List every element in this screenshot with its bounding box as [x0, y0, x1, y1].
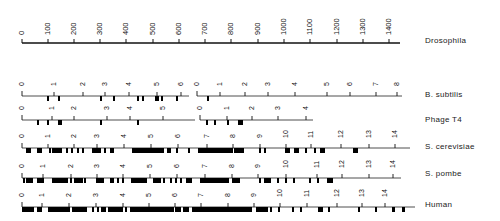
- conserved-block: [122, 178, 124, 183]
- track-tick-label: 7: [197, 193, 204, 197]
- conserved-block: [314, 148, 316, 153]
- scale-tick-label: 600: [174, 22, 183, 35]
- track-tick-label: 5: [147, 134, 154, 138]
- conserved-block: [97, 207, 99, 212]
- track-tick-label: 0: [18, 164, 25, 168]
- scale-tick-label: 1000: [279, 18, 288, 35]
- conserved-block: [285, 148, 290, 153]
- conserved-block: [70, 178, 72, 183]
- conserved-block: [71, 148, 73, 153]
- conserved-block: [137, 96, 139, 101]
- conserved-block: [238, 207, 252, 212]
- conserved-block: [100, 96, 102, 101]
- conserved-block: [84, 178, 86, 183]
- track-tick-label: 5: [159, 106, 166, 110]
- track-tick-label: 0: [18, 193, 25, 197]
- conserved-block: [92, 207, 94, 212]
- track-tick-label: 12: [337, 130, 344, 138]
- track-tick-label: 7: [372, 82, 379, 86]
- track-tick-label: 6: [346, 82, 353, 86]
- conserved-block: [74, 178, 83, 183]
- track-tick-label: 4: [125, 82, 132, 86]
- scale-tick-label: 100: [43, 22, 52, 35]
- conserved-block: [26, 148, 31, 153]
- track-tick-label: 6: [171, 193, 178, 197]
- conserved-block: [161, 96, 163, 101]
- conserved-block: [317, 178, 319, 183]
- conserved-block: [117, 178, 119, 183]
- conserved-block: [170, 178, 172, 183]
- track-tick-label: 4: [120, 134, 127, 138]
- track-tick-label: 13: [365, 130, 372, 138]
- track-tick-label: 0: [18, 134, 25, 138]
- track-tick-label: 8: [229, 134, 236, 138]
- track-tick-label: 11: [313, 161, 320, 168]
- conserved-block: [125, 207, 127, 212]
- track-tick-label: 14: [391, 130, 398, 138]
- conserved-block: [176, 96, 178, 101]
- track-tick-label: 10: [276, 189, 283, 197]
- conserved-block: [270, 207, 272, 212]
- track-tick-label: 5: [146, 164, 153, 168]
- scale-tick-label: 1300: [358, 18, 367, 35]
- conserved-block: [227, 120, 229, 125]
- conserved-block: [188, 148, 190, 153]
- track-tick-label: 8: [224, 193, 231, 197]
- conserved-block: [318, 207, 323, 212]
- scale-tick-label: 200: [69, 22, 78, 35]
- conserved-block: [292, 207, 294, 212]
- track-tick-label: 0: [193, 82, 200, 86]
- track-tick-label: 5: [153, 82, 160, 86]
- track-tick-label: 11: [303, 190, 310, 197]
- conserved-block: [132, 148, 164, 153]
- conserved-block: [176, 148, 178, 153]
- conserved-block: [110, 148, 114, 153]
- conserved-block: [155, 96, 159, 101]
- conserved-block: [137, 120, 139, 125]
- conserved-block: [142, 96, 144, 101]
- conserved-block: [328, 207, 330, 212]
- conserved-block: [163, 178, 165, 183]
- conserved-block: [238, 120, 243, 125]
- scale-tick-label: 800: [226, 22, 235, 35]
- track-tick-label: 8: [393, 82, 400, 86]
- conserved-block: [131, 178, 147, 183]
- track-tick-label: 2: [70, 134, 77, 138]
- label-b-subtilis: B. subtilis: [425, 90, 463, 99]
- conserved-block: [26, 178, 33, 183]
- track-tick-label: 0: [18, 106, 25, 110]
- track-tick-label: 10: [282, 130, 289, 138]
- track-tick-label: 0: [196, 106, 203, 110]
- label-drosophila: Drosophila: [425, 36, 466, 45]
- track-tick-label: 13: [358, 189, 365, 197]
- conserved-block: [358, 207, 360, 212]
- conserved-block: [186, 178, 192, 183]
- conserved-block: [353, 148, 358, 153]
- gene-map-diagram: 0100200300400500600700800900100011001200…: [0, 0, 500, 221]
- track-tick-label: 6: [174, 134, 181, 138]
- conserved-block: [300, 207, 302, 212]
- conserved-block: [100, 120, 102, 125]
- track-tick-label: 5: [323, 82, 330, 86]
- conserved-block: [104, 148, 106, 153]
- track-tick-label: 2: [67, 164, 74, 168]
- scale-tick-label: 300: [95, 22, 104, 35]
- track-tick-label: 7: [203, 134, 210, 138]
- conserved-block: [214, 120, 216, 125]
- track-tick-label: 2: [65, 193, 72, 197]
- label-s-cerevisiae: S. cerevisiae: [425, 142, 475, 151]
- conserved-block: [402, 207, 405, 212]
- gene-map-canvas: 0100200300400500600700800900100011001200…: [0, 0, 500, 221]
- track-tick-label: 2: [79, 82, 86, 86]
- conserved-block: [285, 178, 287, 183]
- conserved-block: [206, 120, 208, 125]
- track-tick-label: 14: [381, 189, 388, 197]
- conserved-block: [47, 120, 49, 125]
- conserved-block: [200, 178, 229, 183]
- track-tick-label: 14: [389, 160, 396, 168]
- track-tick-label: 2: [241, 82, 248, 86]
- conserved-block: [92, 148, 101, 153]
- conserved-block: [293, 178, 295, 183]
- conserved-block: [234, 148, 244, 153]
- conserved-block: [58, 96, 60, 101]
